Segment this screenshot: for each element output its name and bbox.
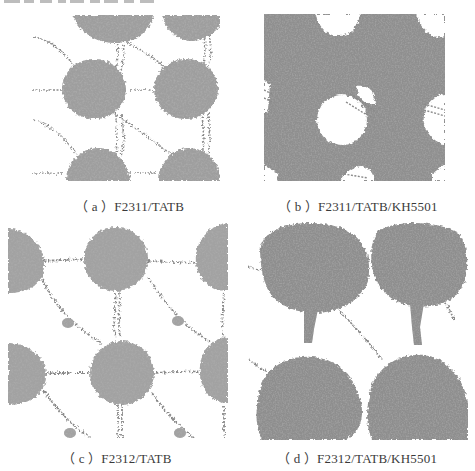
panel-b-image xyxy=(264,14,445,181)
simulation-snapshot-c xyxy=(8,219,228,438)
caption-a: （ a ）F2311/TATB xyxy=(75,196,184,215)
caption-c: （ c ）F2312/TATB xyxy=(62,448,172,467)
panel-c-image xyxy=(8,219,228,438)
caption-d: （ d ）F2312/TATB/KH5501 xyxy=(277,448,437,467)
simulation-snapshot-a xyxy=(32,15,220,181)
simulation-snapshot-b xyxy=(264,14,445,181)
caption-b: （ b ）F2311/TATB/KH5501 xyxy=(278,196,438,215)
panel-d-image xyxy=(248,219,468,440)
simulation-snapshot-d xyxy=(248,219,468,440)
cropped-header-remnant xyxy=(0,0,160,6)
panel-a-image xyxy=(32,15,220,181)
